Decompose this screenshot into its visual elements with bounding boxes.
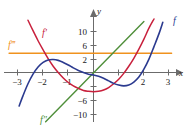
y-tick-label: −6 <box>77 96 87 106</box>
y-tick-label: 10 <box>78 27 88 37</box>
x-tick-label: 2 <box>141 77 146 87</box>
x-tick-label: −3 <box>12 77 22 87</box>
curve-label-f: f <box>173 15 177 26</box>
curve-label-f-double-prime: f″ <box>40 114 48 125</box>
curve-f <box>19 22 163 106</box>
x-tick-label: 3 <box>166 77 171 87</box>
curve-label-f-prime: f′ <box>42 27 48 38</box>
y-axis-arrow <box>90 9 97 17</box>
x-tick-label: −2 <box>37 77 47 87</box>
y-axis-label: y <box>96 6 101 16</box>
curve-f-double-prime <box>46 22 144 122</box>
graph-canvas: x y −3 −2 −1 2 3 10 6 2 −6 −10 f f′ f″ f… <box>0 0 189 131</box>
derivative-graphs-figure: x y −3 −2 −1 2 3 10 6 2 −6 −10 f f′ f″ f… <box>0 0 189 131</box>
x-axis-label: x <box>178 68 183 78</box>
y-tick-label: 2 <box>83 55 88 65</box>
curve-label-f-triple-prime: f‴ <box>8 39 16 50</box>
y-tick-label: 6 <box>83 41 88 51</box>
y-axis <box>90 9 97 122</box>
y-tick-label: −10 <box>73 110 88 120</box>
